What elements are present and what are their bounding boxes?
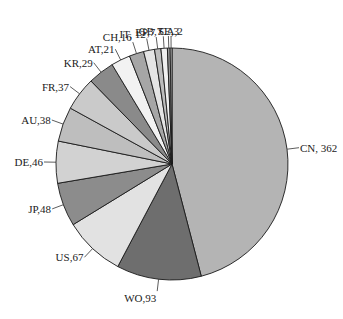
- slice-label-ca: CA,2: [159, 25, 183, 37]
- leader-line: [287, 148, 299, 150]
- slice-label-jp: JP,48: [28, 203, 51, 215]
- leader-line: [133, 42, 137, 54]
- leader-line: [52, 205, 63, 209]
- slice-label-at: AT,21: [88, 43, 114, 55]
- leader-line: [163, 36, 164, 48]
- slice-label-wo: WO,93: [124, 292, 156, 304]
- leader-line: [156, 37, 158, 49]
- slice-label-kr: KR,29: [64, 57, 93, 69]
- slice-label-fr: FR,37: [42, 81, 69, 93]
- pie-slices: [56, 48, 288, 280]
- leader-line: [147, 39, 149, 51]
- slice-label-au: AU,38: [21, 114, 51, 126]
- pie-chart: [0, 0, 343, 319]
- leader-line: [52, 120, 63, 124]
- slice-label-de: DE,46: [15, 156, 43, 168]
- leader-line: [94, 63, 101, 72]
- leader-line: [115, 49, 120, 60]
- slice-label-us: US,67: [56, 251, 84, 263]
- slice-label-cn: CN, 362: [300, 142, 337, 154]
- leader-line: [84, 249, 92, 258]
- leader-line: [70, 87, 80, 94]
- leader-line: [157, 279, 158, 291]
